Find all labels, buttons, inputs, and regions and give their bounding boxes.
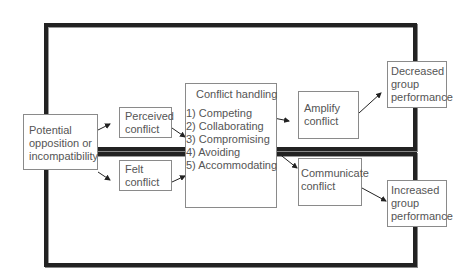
node-text: performance bbox=[391, 91, 443, 104]
amplify-conflict-box: Amplify conflict bbox=[298, 91, 359, 139]
node-text: conflict bbox=[304, 115, 353, 128]
node-text: Amplify bbox=[304, 102, 353, 115]
conflict-handling-box: Conflict handling 1) Competing 2) Collab… bbox=[185, 83, 277, 208]
node-text: incompatibility bbox=[29, 150, 92, 163]
handling-item-avoiding: 4) Avoiding bbox=[186, 146, 272, 159]
increased-performance-box: Increased group performance bbox=[387, 180, 447, 227]
node-text: group bbox=[391, 197, 443, 210]
node-text: Decreased bbox=[391, 65, 443, 78]
node-text: Felt bbox=[125, 163, 166, 176]
node-text: group bbox=[391, 78, 443, 91]
potential-opposition-box: Potential opposition or incompatibility bbox=[23, 114, 98, 170]
conflict-handling-list: 1) Competing 2) Collaborating 3) Comprom… bbox=[190, 107, 272, 172]
node-text: conflict bbox=[125, 123, 166, 136]
conflict-handling-title: Conflict handling bbox=[196, 88, 272, 101]
felt-conflict-box: Felt conflict bbox=[119, 160, 172, 191]
handling-item-accommodating: 5) Accommodating bbox=[186, 159, 272, 172]
perceived-conflict-box: Perceived conflict bbox=[119, 107, 172, 138]
decreased-performance-box: Decreased group performance bbox=[387, 61, 447, 108]
node-text: opposition or bbox=[29, 137, 92, 150]
node-text: conflict bbox=[125, 176, 166, 189]
node-text: Communicate bbox=[301, 167, 359, 180]
handling-item-collaborating: 2) Collaborating bbox=[186, 120, 272, 133]
node-text: Potential bbox=[29, 124, 92, 137]
handling-item-competing: 1) Competing bbox=[186, 107, 272, 120]
communicate-conflict-box: Communicate conflict bbox=[298, 158, 362, 206]
handling-item-compromising: 3) Compromising bbox=[186, 133, 272, 146]
node-text: Increased bbox=[391, 184, 443, 197]
node-text: conflict bbox=[301, 180, 359, 193]
node-text: Perceived bbox=[125, 110, 166, 123]
node-text: performance bbox=[391, 210, 443, 223]
